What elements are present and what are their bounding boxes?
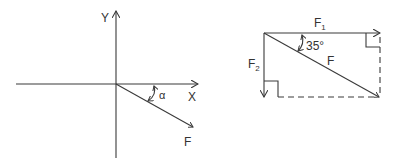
force-diagrams: Y X α F F1 F2 F 35° xyxy=(0,0,395,167)
resultant-label: F xyxy=(327,54,334,68)
x-axis-label: X xyxy=(188,90,196,104)
force-resolution-diagram: F1 F2 F 35° xyxy=(248,16,380,97)
y-axis-label: Y xyxy=(101,11,109,25)
f2-label: F2 xyxy=(248,57,260,73)
angle-35-label: 35° xyxy=(306,39,324,53)
force-label: F xyxy=(184,135,191,149)
coordinate-diagram: Y X α F xyxy=(16,11,198,158)
angle-alpha-arc xyxy=(148,86,155,101)
f1-label: F1 xyxy=(314,16,326,32)
right-angle-marker-top xyxy=(366,33,380,47)
right-angle-marker-bottom xyxy=(264,81,278,97)
angle-35-arc xyxy=(298,35,303,51)
angle-alpha-label: α xyxy=(159,89,166,101)
